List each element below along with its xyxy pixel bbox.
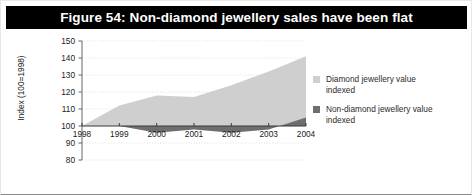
y-tick-labels-group: 8090100110120130140150	[61, 36, 75, 165]
x-tick-label: 1999	[110, 129, 129, 139]
non-diamond-series-swatch	[313, 106, 320, 113]
x-tick-label: 2001	[185, 129, 204, 139]
y-tick-label: 140	[61, 53, 75, 63]
y-tick-label: 150	[61, 36, 75, 46]
figure-title: Figure 54: Non-diamond jewellery sales h…	[6, 6, 467, 29]
legend-item-label: Non-diamond jewellery value indexed	[326, 104, 444, 125]
legend-item: Non-diamond jewellery value indexed	[313, 104, 463, 125]
chart-legend: Diamond jewellery value indexedNon-diamo…	[313, 74, 463, 134]
x-tick-label: 1998	[73, 129, 92, 139]
diamond-series-swatch	[313, 76, 320, 83]
plot-area: Index (100=1998) 8090100110120130140150 …	[1, 29, 472, 195]
y-tick-label: 120	[61, 87, 75, 97]
x-tick-label: 2003	[259, 129, 278, 139]
y-tick-label: 130	[61, 70, 75, 80]
legend-item-label: Diamond jewellery value indexed	[326, 74, 444, 95]
legend-item: Diamond jewellery value indexed	[313, 74, 463, 95]
figure-container: Figure 54: Non-diamond jewellery sales h…	[0, 0, 472, 195]
series-areas-group	[82, 56, 306, 133]
x-tick-label: 2002	[222, 129, 241, 139]
y-tick-label: 80	[66, 155, 76, 165]
y-tick-label: 90	[66, 138, 76, 148]
y-tick-label: 110	[62, 104, 76, 114]
series-area-0	[82, 56, 306, 126]
x-tick-label: 2000	[147, 129, 166, 139]
x-tick-labels-group: 1998199920002001200220032004	[73, 129, 316, 139]
